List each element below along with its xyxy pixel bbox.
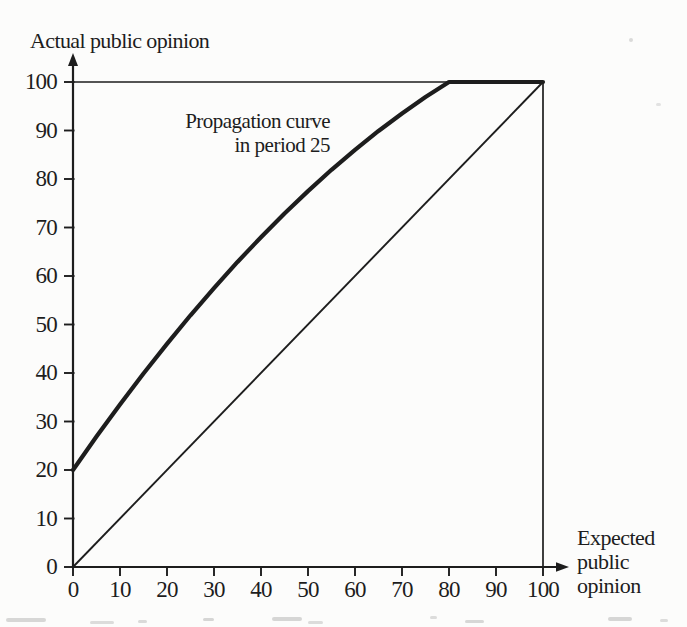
x-tick-label: 50: [297, 577, 319, 602]
y-axis-arrow: [68, 53, 78, 66]
y-axis-title: Actual public opinion: [30, 28, 209, 54]
x-tick-label: 80: [438, 577, 460, 602]
y-tick-label: 60: [36, 263, 58, 288]
x-tick-label: 30: [203, 577, 225, 602]
y-tick-label: 10: [36, 506, 58, 531]
x-tick-label: 0: [68, 577, 79, 602]
y-tick-label: 30: [36, 409, 58, 434]
x-tick-label: 100: [527, 577, 559, 602]
y-tick-label: 40: [36, 360, 58, 385]
x-tick-label: 20: [156, 577, 178, 602]
curve-annotation: Propagation curve in period 25: [185, 109, 330, 157]
x-tick-label: 70: [391, 577, 413, 602]
x-tick-label: 40: [250, 577, 272, 602]
y-tick-label: 0: [46, 554, 57, 579]
x-axis-title-line3: opinion: [577, 573, 641, 598]
x-tick-label: 10: [109, 577, 131, 602]
y-tick-label: 90: [36, 118, 58, 143]
x-axis-arrow: [556, 562, 569, 572]
y-tick-label: 80: [36, 166, 58, 191]
y-tick-label: 100: [25, 69, 57, 94]
x-axis-title-line2: public: [577, 549, 629, 574]
y-tick-label: 70: [36, 215, 58, 240]
y-tick-label: 20: [36, 457, 58, 482]
y-tick-label: 50: [36, 312, 58, 337]
x-axis-title-line1: Expected: [577, 525, 655, 550]
curve-annotation-line2: in period 25: [235, 133, 330, 157]
x-tick-label: 60: [344, 577, 366, 602]
x-tick-label: 90: [485, 577, 507, 602]
x-axis-title: Expected public opinion: [577, 526, 655, 598]
curve-annotation-line1: Propagation curve: [185, 109, 330, 133]
